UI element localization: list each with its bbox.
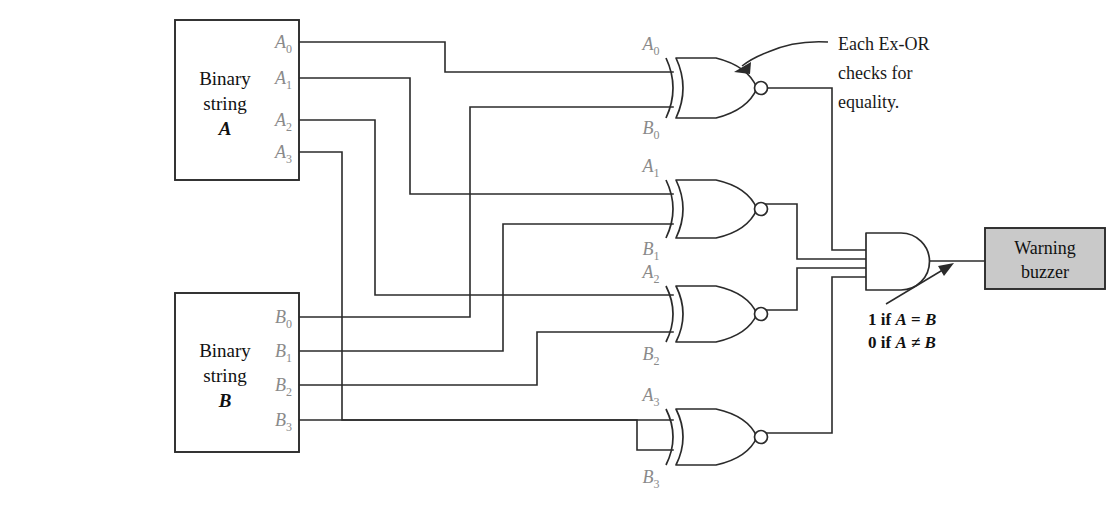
wire-xnor3-out (765, 268, 866, 310)
gate-input-label-a0: A0 (642, 34, 660, 58)
xnor-gate-1-bubble (755, 203, 768, 216)
xnor-gate-0-bubble (755, 82, 768, 95)
exor-note-line3: equality. (838, 92, 899, 112)
wire-xnor1-out (765, 88, 866, 250)
binary-string-a-line1: Binary (199, 68, 251, 89)
wire-xnor4-out (765, 277, 866, 433)
gate-input-label-b1: B1 (643, 239, 660, 263)
binary-string-b-line1: Binary (199, 340, 251, 361)
binary-string-a-line3: A (218, 118, 232, 139)
xnor-gate-3[interactable]: A3 B3 (642, 385, 768, 491)
gate-input-label-b3: B3 (643, 467, 660, 491)
binary-string-b-line3: B (218, 390, 232, 411)
warning-buzzer-line1: Warning (1014, 238, 1076, 258)
and-gate[interactable] (866, 233, 930, 290)
output-note-arrowhead (938, 263, 954, 276)
exor-note-leader-line (742, 42, 828, 66)
xnor-gate-1-body (676, 180, 757, 238)
gate-input-label-a2: A2 (642, 262, 660, 286)
circuit-diagram-canvas: Binary string A A0 A1 A2 A3 Binary strin… (0, 0, 1119, 505)
output-note-line1: 1 if A = B (868, 310, 936, 329)
block-binary-string-b: Binary string B B0 B1 B2 B3 (175, 293, 299, 452)
warning-buzzer-line2: buzzer (1021, 262, 1069, 282)
block-binary-string-a: Binary string A A0 A1 A2 A3 (175, 20, 299, 180)
xnor-gate-1-extra-arc (666, 180, 673, 238)
output-note-line2: 0 if A ≠ B (868, 333, 936, 352)
circuit-svg: Binary string A A0 A1 A2 A3 Binary strin… (0, 0, 1119, 505)
xnor-gate-2-bubble (755, 308, 768, 321)
wire-b3 (299, 420, 673, 450)
wire-a1 (299, 78, 673, 194)
wire-a0 (299, 42, 673, 72)
xnor-gate-0-extra-arc (666, 58, 673, 118)
gate-input-label-b2: B2 (643, 344, 660, 368)
exor-note-line1: Each Ex-OR (838, 34, 929, 54)
wire-a3 (299, 152, 673, 420)
xnor-gate-0[interactable]: A0 B0 (642, 34, 768, 142)
gate-input-label-b0: B0 (643, 118, 660, 142)
exor-note-line2: checks for (838, 63, 912, 83)
gate-input-label-a3: A3 (642, 385, 660, 409)
xnor-gate-2[interactable]: A2 B2 (642, 262, 768, 368)
wire-b0 (299, 107, 673, 317)
wire-b2 (299, 332, 673, 385)
xnor-gate-3-body (676, 409, 757, 465)
binary-string-b-line2: string (203, 365, 247, 386)
xnor-gate-3-extra-arc (666, 409, 673, 465)
xnor-gate-2-body (676, 286, 757, 342)
xnor-gate-1[interactable]: A1 B1 (642, 156, 768, 263)
wire-a2 (299, 120, 673, 295)
binary-string-a-line2: string (203, 93, 247, 114)
and-gate-body (866, 233, 930, 290)
warning-buzzer[interactable]: Warning buzzer (985, 228, 1105, 289)
xnor-gate-3-bubble (755, 431, 768, 444)
gate-input-label-a1: A1 (642, 156, 660, 180)
